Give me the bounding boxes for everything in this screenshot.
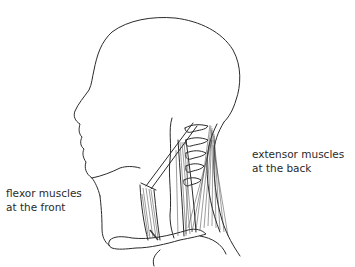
front-neck-outline — [100, 196, 110, 246]
flexor-label-line-2: at the front — [6, 200, 82, 214]
flexor-label-line-1: flexor muscles — [6, 186, 82, 200]
shoulder-outline — [153, 250, 160, 266]
spine-front — [169, 118, 174, 238]
extensor-label-line-1: extensor muscles — [252, 147, 344, 161]
extensor-muscles-label: extensor muscles at the back — [252, 147, 344, 175]
shoulder-outline-2 — [200, 236, 226, 254]
flexor-muscle-hatching — [142, 188, 158, 240]
back-neck-outline — [214, 122, 240, 256]
flexor-muscles-label: flexor muscles at the front — [6, 186, 82, 214]
jaw-line — [92, 167, 140, 179]
vertebra-2 — [186, 138, 208, 147]
head-neck-illustration — [0, 0, 355, 267]
vertebra-4 — [186, 164, 204, 173]
extensor-label-line-2: at the back — [252, 161, 344, 175]
vertebra-5 — [184, 178, 201, 186]
scm-muscle-edge-2 — [151, 126, 197, 189]
